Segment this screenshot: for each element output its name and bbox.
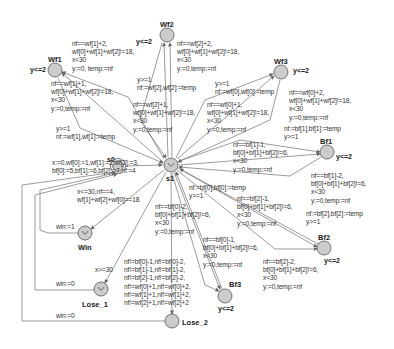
edge-label-lose1: x>=30 bbox=[95, 266, 113, 274]
edge-label-wf1-back: y>=1 nf:=wf[1],wf[1]:=temp bbox=[56, 125, 115, 141]
edge-label-bf2-back: nf:=bf[2],bf[2]:=temp y>=1 bbox=[306, 210, 363, 226]
node-bf1[interactable] bbox=[320, 145, 334, 159]
node-label-wf3: Wf3 bbox=[274, 57, 288, 66]
edge-label-lose2-back: win:=0 bbox=[56, 312, 75, 320]
edge-label-bf3-back: nf:=bf[0],bf[0]:=temp y>=1 bbox=[189, 184, 246, 200]
edge-label-lose1-back: win:=0 bbox=[56, 280, 75, 288]
edge-label-bf1-b: nf==bf[1]-2, bf[0]+bf[1]+bf[2]!=6, x<30 … bbox=[311, 172, 366, 205]
node-s1[interactable] bbox=[164, 158, 178, 172]
edge-label-wf1-b: nf==wf[1]+1, wf[0]+wf[1]+wf[2]!=18, x<30… bbox=[51, 80, 113, 113]
node-win[interactable] bbox=[78, 226, 92, 240]
node-wf3[interactable] bbox=[274, 65, 288, 79]
invariant-bf3: y<=2 bbox=[218, 305, 234, 312]
node-lose1[interactable] bbox=[94, 282, 108, 296]
edge-label-win-back: win:=1 bbox=[56, 223, 75, 231]
edge-label-wf1-a: nf==wf[1]+2, wf[0]+wf[1]+wf[2]!=18, x<30… bbox=[72, 40, 134, 73]
node-label-lose2: Lose_2 bbox=[182, 318, 208, 327]
node-wf1[interactable] bbox=[48, 63, 62, 77]
edge-label-wf2-b: nf==wf[2]+1, wf[0]+wf[1]+wf[2]!=18, x<30… bbox=[133, 101, 195, 134]
invariant-bf2: y<=2 bbox=[324, 257, 340, 264]
edge-label-bf3-b: nf==bf[0]-1, bf[0]+bf[1]+bf[2]!=6, x<30 … bbox=[203, 236, 258, 269]
edge-label-bf1-a: nf==bf[1]-1, bf[0]+bf[1]+bf[2]!=6, x<30 … bbox=[233, 141, 288, 174]
node-label-win: Win bbox=[78, 243, 92, 252]
edge-label-bf2-b: nf==bf[2]-2, bf[0]+bf[1]+bf[2]!=6, x<30 … bbox=[263, 258, 318, 291]
invariant-wf3: y<=2 bbox=[293, 67, 309, 74]
node-label-wf2: Wf2 bbox=[160, 20, 174, 29]
edge-label-s0-s1: x:=0,wf[0]:=1,wf[1]:=2,wf[2]:=3, bf[0]:=… bbox=[52, 159, 139, 175]
node-label-s1: s1 bbox=[166, 175, 174, 182]
edge-label-bf1-back: nf:=bf[1],bf[1]:=temp y>=1 bbox=[284, 125, 341, 141]
node-label-bf3: Bf3 bbox=[229, 280, 241, 289]
edge-label-wf3-back: y>=1 nf:=wf[0],wf[0]:=temp bbox=[215, 80, 274, 96]
edge-label-wf3-a: nf==wf[0]+2, wf[0]+wf[1]+wf[2]!=18, x<30… bbox=[289, 89, 351, 122]
node-bf3[interactable] bbox=[218, 289, 232, 303]
edge-label-wf2-back: y>=1 nf:=wf[2],wf[2]:=temp bbox=[137, 76, 196, 92]
invariant-bf1: y<=2 bbox=[336, 153, 352, 160]
node-wf2[interactable] bbox=[160, 28, 174, 42]
edge-label-wf2-a: nf==wf[2]+2, wf[0]+wf[1]+wf[2]!=18, x<30… bbox=[177, 40, 239, 73]
edge-label-lose2: nf!=bf[0]-1,nf!=bf[0]-2, nf!=bf[1]-1,nf!… bbox=[124, 258, 191, 307]
node-bf2[interactable] bbox=[317, 241, 331, 255]
node-label-lose1: Lose_1 bbox=[82, 300, 108, 309]
node-lose2[interactable] bbox=[165, 314, 179, 328]
node-label-wf1: Wf1 bbox=[48, 55, 62, 64]
invariant-wf1: y<=2 bbox=[30, 66, 46, 73]
edge-s1-wf2-b bbox=[164, 43, 168, 157]
edge-label-bf3-a: nf==bf[0]-2, bf[0]+bf[1]+bf[2]!=6, x<30 … bbox=[155, 203, 210, 236]
edge-label-wf3-b: nf==wf[0]+1, wf[0]+wf[1]+wf[2]!=18, x<30… bbox=[207, 101, 269, 134]
invariant-wf2: y<=2 bbox=[136, 38, 152, 45]
edge-label-win: x<=30,nf==4, wf[1]+wf[2]+wf[0]==18 bbox=[77, 188, 139, 204]
edge-s1-wf2-a bbox=[170, 43, 172, 157]
node-label-bf2: Bf2 bbox=[318, 233, 330, 242]
